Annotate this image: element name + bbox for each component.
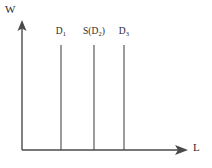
diagram-canvas (0, 0, 212, 168)
curve-label-d3-base: D (119, 26, 126, 36)
x-axis-label: L (193, 142, 200, 153)
curve-label-sd2-prefix: S(D (83, 26, 99, 36)
curve-label-d1: D1 (56, 27, 66, 37)
curve-label-d1-subscript: 1 (63, 30, 66, 37)
curve-label-sd2-subscript: 2 (98, 30, 101, 37)
curve-label-sd2: S(D2) (83, 27, 105, 37)
curve-label-d3-subscript: 3 (126, 30, 129, 37)
curve-label-d3: D3 (119, 27, 129, 37)
curve-label-sd2-suffix: ) (102, 26, 105, 36)
curve-label-d1-base: D (56, 26, 63, 36)
y-axis-label: W (5, 4, 16, 15)
wage-labor-diagram: W L D1 S(D2) D3 (0, 0, 212, 168)
